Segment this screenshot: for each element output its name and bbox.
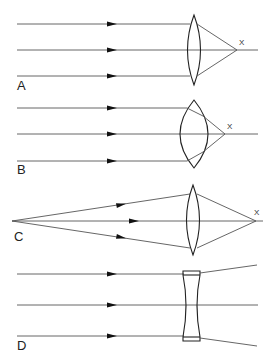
refracted-ray-a-bottom [197,50,237,76]
panel-b: X B [17,100,258,177]
refracted-ray-b-top [203,116,225,134]
arrow-icon [107,22,117,27]
lens-ray-diagram: X A X B X C [0,0,273,360]
refracted-ray-c-top [197,194,256,221]
arrow-icon [107,132,117,137]
arrow-icon [116,203,126,208]
ray-c-bottom [12,221,190,248]
panel-d: D [17,265,258,353]
panel-label-d: D [17,338,26,353]
arrow-icon [129,219,139,224]
ray-c-top [12,194,190,221]
concave-lens [183,271,200,341]
arrow-icon [107,159,117,164]
focal-point-label: X [239,38,245,47]
panel-label-a: A [17,78,26,93]
refracted-ray-c-bottom [197,221,256,248]
arrow-icon [107,48,117,53]
arrow-icon [107,74,117,79]
panel-c: X C [12,185,263,255]
focal-point-label: X [227,122,233,131]
panel-a: X A [17,15,258,93]
panel-label-c: C [14,229,23,244]
refracted-ray-b-bottom [203,134,225,152]
focal-point-label: X [254,208,260,217]
arrow-icon [107,334,117,339]
panel-label-b: B [17,162,26,177]
arrow-icon [107,303,117,308]
diverging-ray-d-top [200,265,257,273]
diverging-ray-d-bottom [200,338,257,346]
arrow-icon [107,106,117,111]
arrow-icon [107,272,117,277]
convex-lens-thin [187,185,200,255]
arrow-icon [116,234,126,239]
refracted-ray-a-top [197,24,237,50]
